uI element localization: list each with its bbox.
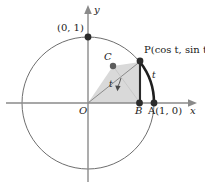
- dot-point-p: [137, 58, 144, 65]
- x-axis-label: x: [190, 106, 196, 116]
- origin-label: O: [79, 106, 87, 116]
- angle-t-label: t: [109, 80, 113, 89]
- point-p-label: P(cos t, sin t): [144, 45, 205, 55]
- arc-t-label: t: [152, 71, 156, 80]
- figure-canvas: [0, 0, 205, 192]
- point-b-label: B: [135, 106, 142, 116]
- y-axis-arrow: [84, 5, 92, 14]
- y-axis-label: y: [94, 5, 100, 15]
- point-a-label: A(1, 0): [148, 106, 182, 116]
- point-top-label: (0, 1): [57, 23, 84, 33]
- arc-pa: [140, 62, 154, 103]
- unit-circle-figure: y x (0, 1) O B A(1, 0) C P(cos t, sin t)…: [0, 0, 205, 192]
- point-c-label: C: [104, 52, 112, 62]
- dot-point-top: [85, 34, 92, 41]
- dot-point-c: [110, 63, 116, 69]
